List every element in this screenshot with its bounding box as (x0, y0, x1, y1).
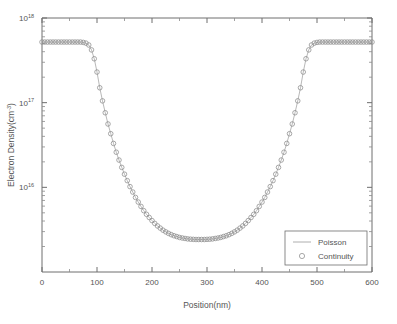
x-tick-label: 300 (200, 278, 214, 287)
electron-density-plot: 0100200300400500600101610171018Position(… (0, 0, 397, 324)
x-axis-title: Position(nm) (183, 300, 231, 310)
y-tick-label: 1017 (19, 97, 34, 108)
x-tick-label: 600 (365, 278, 379, 287)
y-tick-label: 1016 (19, 182, 34, 193)
legend-label-poisson: Poisson (318, 238, 346, 247)
x-tick-label: 100 (90, 278, 104, 287)
y-axis-title: Electron Density(cm-3) (6, 103, 17, 187)
legend-label-continuity: Continuity (318, 252, 354, 261)
x-tick-label: 400 (255, 278, 269, 287)
x-tick-label: 0 (40, 278, 45, 287)
y-tick-label: 1018 (19, 13, 34, 24)
x-tick-label: 500 (310, 278, 324, 287)
x-tick-label: 200 (145, 278, 159, 287)
series-poisson-line (42, 42, 372, 239)
chart-figure: 0100200300400500600101610171018Position(… (0, 0, 397, 324)
